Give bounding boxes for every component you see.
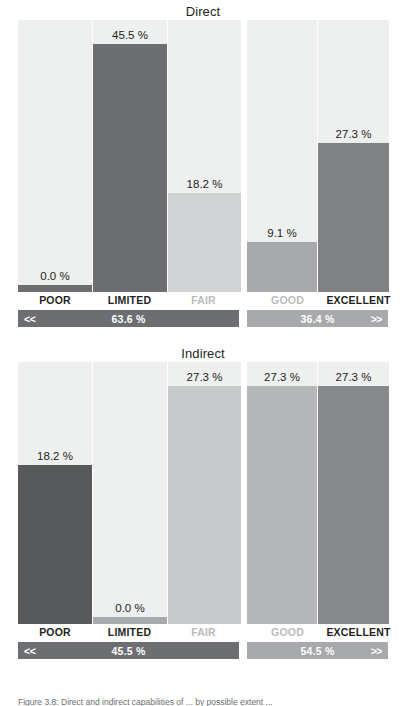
arrow-right-icon-indirect: >> <box>371 645 382 657</box>
chart-panel-indirect: Indirect 18.2 % 0.0 % 27.3 % <box>0 342 406 690</box>
bar-value-label-poor-indirect: 18.2 % <box>18 450 92 463</box>
bar-column-poor-indirect[interactable]: 18.2 % <box>18 362 92 624</box>
summary-gap-direct <box>239 310 247 327</box>
category-label-limited-direct: LIMITED <box>92 294 167 306</box>
bar-value-label-fair-indirect: 27.3 % <box>168 371 241 384</box>
category-axis-direct: POOR LIMITED FAIR GOOD EXCELLENT <box>18 292 388 307</box>
bar-good-indirect[interactable] <box>247 386 317 624</box>
summary-segment-right-direct[interactable]: 36.4 % >> <box>247 310 388 327</box>
summary-left-value-direct: 63.6 % <box>112 313 146 325</box>
chart-panel-direct: Direct 0.0 % 45.5 % 18.2 % <box>0 0 406 338</box>
category-axis-indirect: POOR LIMITED FAIR GOOD EXCELLENT <box>18 624 388 639</box>
summary-segment-right-indirect[interactable]: 54.5 % >> <box>247 642 388 659</box>
bar-value-label-good-direct: 9.1 % <box>247 227 317 240</box>
chart-title-indirect: Indirect <box>0 342 406 362</box>
plot-area-direct: 0.0 % 45.5 % 18.2 % 9.1 % <box>18 20 388 292</box>
bar-column-fair-direct[interactable]: 18.2 % <box>167 20 241 292</box>
bar-column-excellent-indirect[interactable]: 27.3 % <box>317 362 389 624</box>
bar-column-limited-indirect[interactable]: 0.0 % <box>92 362 167 624</box>
bar-value-label-excellent-direct: 27.3 % <box>318 128 389 141</box>
bar-fair-indirect[interactable] <box>168 386 241 624</box>
bar-excellent-direct[interactable] <box>318 143 389 292</box>
bar-value-label-poor-direct: 0.0 % <box>18 270 92 283</box>
bar-excellent-indirect[interactable] <box>318 386 389 624</box>
bar-value-label-good-indirect: 27.3 % <box>247 371 317 384</box>
category-label-excellent-indirect: EXCELLENT <box>323 626 394 638</box>
bar-limited-indirect[interactable] <box>93 617 167 624</box>
bar-limited-direct[interactable] <box>93 44 167 292</box>
bar-group-left-direct: 0.0 % 45.5 % 18.2 % <box>18 20 239 292</box>
chart-title-direct: Direct <box>0 0 406 20</box>
category-label-fair-direct: FAIR <box>167 294 240 306</box>
figure-caption: Figure 3.8: Direct and indirect capabili… <box>18 697 398 706</box>
bar-value-label-excellent-indirect: 27.3 % <box>318 371 389 384</box>
category-label-good-indirect: GOOD <box>252 626 323 638</box>
summary-left-value-indirect: 45.5 % <box>112 645 146 657</box>
bar-column-good-indirect[interactable]: 27.3 % <box>247 362 317 624</box>
bar-column-limited-direct[interactable]: 45.5 % <box>92 20 167 292</box>
summary-right-value-indirect: 54.5 % <box>301 645 335 657</box>
category-label-excellent-direct: EXCELLENT <box>323 294 394 306</box>
category-label-poor-direct: POOR <box>18 294 92 306</box>
bar-value-label-limited-direct: 45.5 % <box>93 29 167 42</box>
figure-container: Direct 0.0 % 45.5 % 18.2 % <box>0 0 406 706</box>
bar-group-left-indirect: 18.2 % 0.0 % 27.3 % <box>18 362 239 624</box>
summary-bar-direct: << 63.6 % 36.4 % >> <box>18 310 388 327</box>
plot-area-indirect: 18.2 % 0.0 % 27.3 % 27.3 % <box>18 362 388 624</box>
bar-value-label-fair-direct: 18.2 % <box>168 178 241 191</box>
bar-poor-indirect[interactable] <box>18 465 92 624</box>
arrow-right-icon-direct: >> <box>371 313 382 325</box>
bar-group-right-direct: 9.1 % 27.3 % <box>247 20 388 292</box>
bar-fair-direct[interactable] <box>168 193 241 292</box>
bar-column-poor-direct[interactable]: 0.0 % <box>18 20 92 292</box>
bar-column-excellent-direct[interactable]: 27.3 % <box>317 20 389 292</box>
summary-right-value-direct: 36.4 % <box>301 313 335 325</box>
bar-group-right-indirect: 27.3 % 27.3 % <box>247 362 388 624</box>
bar-value-label-limited-indirect: 0.0 % <box>93 602 167 615</box>
category-label-good-direct: GOOD <box>252 294 323 306</box>
arrow-left-icon-direct: << <box>24 313 35 325</box>
arrow-left-icon-indirect: << <box>24 645 35 657</box>
bar-column-good-direct[interactable]: 9.1 % <box>247 20 317 292</box>
summary-bar-indirect: << 45.5 % 54.5 % >> <box>18 642 388 659</box>
bar-column-fair-indirect[interactable]: 27.3 % <box>167 362 241 624</box>
summary-gap-indirect <box>239 642 247 659</box>
category-label-poor-indirect: POOR <box>18 626 92 638</box>
summary-segment-left-direct[interactable]: << 63.6 % <box>18 310 239 327</box>
bar-poor-direct[interactable] <box>18 285 92 292</box>
bar-good-direct[interactable] <box>247 242 317 292</box>
summary-segment-left-indirect[interactable]: << 45.5 % <box>18 642 239 659</box>
category-label-limited-indirect: LIMITED <box>92 626 167 638</box>
category-label-fair-indirect: FAIR <box>167 626 240 638</box>
